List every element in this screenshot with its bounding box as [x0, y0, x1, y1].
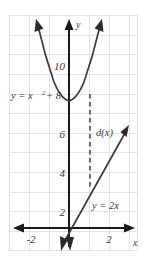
graph-figure: 10 6 4 2 -2 2 y x y = x 2 + 8 d(x) y = 2…: [0, 0, 147, 256]
parabola-equation-tail: + 8: [46, 90, 62, 101]
x-axis-label: x: [132, 237, 138, 248]
x-tick-label-2: 2: [106, 233, 112, 245]
line-equation-label: y = 2x: [91, 200, 119, 211]
distance-function-label: d(x): [96, 127, 113, 139]
y-tick-label-4: 4: [60, 167, 66, 179]
y-tick-label-2: 2: [60, 206, 66, 218]
figure-background: [0, 0, 147, 256]
y-axis-label: y: [75, 19, 81, 30]
parabola-equation-base: y = x: [10, 90, 33, 101]
x-tick-label-minus-2: -2: [26, 233, 36, 245]
y-tick-label-6: 6: [60, 128, 66, 140]
y-tick-label-10: 10: [54, 60, 66, 72]
coordinate-plane-svg: 10 6 4 2 -2 2 y x y = x 2 + 8 d(x) y = 2…: [0, 0, 147, 256]
